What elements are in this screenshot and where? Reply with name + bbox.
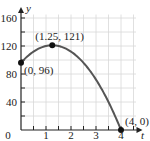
x-axis-label: t xyxy=(141,129,145,141)
y-axis-arrow-icon xyxy=(18,7,24,13)
y-tick-label: 80 xyxy=(6,68,18,80)
x-tick-label: 4 xyxy=(118,129,124,141)
point-label: (4, 0) xyxy=(125,115,149,128)
x-tick-label: 2 xyxy=(68,129,74,141)
x-tick-label: 1 xyxy=(43,129,49,141)
data-point xyxy=(49,42,55,48)
y-tick-label: 40 xyxy=(6,96,18,108)
x-tick-label: 0 xyxy=(5,129,11,141)
point-label: (0, 96) xyxy=(24,64,54,77)
point-label: (1.25, 121) xyxy=(35,30,84,43)
y-tick-label: 120 xyxy=(1,40,18,52)
chart: 012344080120160ty(0, 96)(1.25, 121)(4, 0… xyxy=(0,0,150,141)
x-tick-label: 3 xyxy=(93,129,99,141)
labels: 012344080120160ty(0, 96)(1.25, 121)(4, 0… xyxy=(1,2,150,141)
y-tick-label: 160 xyxy=(1,12,18,24)
y-axis-label: y xyxy=(25,2,31,14)
